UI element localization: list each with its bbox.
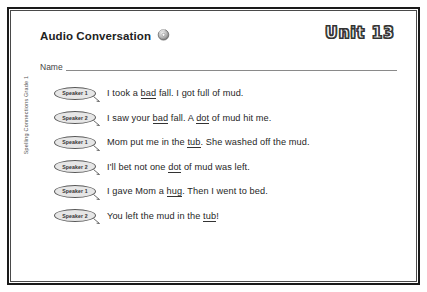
speaker-bubble: Speaker 1 bbox=[54, 87, 96, 100]
dialogue-line: Speaker 1 I gave Mom a hug. Then I went … bbox=[54, 179, 401, 204]
speaker-label: Speaker 1 bbox=[62, 90, 87, 96]
dialogue-list: Speaker 1 I took a bad fall. I got full … bbox=[36, 81, 401, 228]
spelling-word: tub bbox=[187, 137, 200, 148]
worksheet-page: Spelling Connections Grade 1 Audio Conve… bbox=[0, 0, 427, 292]
utterance-text: You left the mud in the tub! bbox=[96, 211, 219, 221]
spelling-word: bad bbox=[141, 88, 157, 99]
dialogue-line: Speaker 2 You left the mud in the tub! bbox=[54, 204, 401, 229]
speaker-bubble: Speaker 2 bbox=[54, 160, 96, 173]
name-field-row[interactable]: Name bbox=[36, 57, 401, 72]
speaker-label: Speaker 2 bbox=[62, 213, 87, 219]
speaker-bubble: Speaker 1 bbox=[54, 136, 96, 149]
speaker-bubble: Speaker 2 bbox=[54, 209, 96, 222]
spelling-word: bad bbox=[153, 113, 169, 124]
utterance-text: I saw your bad fall. A dot of mud hit me… bbox=[96, 113, 271, 123]
utterance-text: I'll bet not one dot of mud was left. bbox=[96, 162, 250, 172]
speaker-label: Speaker 2 bbox=[62, 115, 87, 121]
worksheet-content: Audio Conversation bbox=[36, 24, 401, 268]
speaker-label: Speaker 1 bbox=[62, 139, 87, 145]
worksheet-header: Audio Conversation bbox=[36, 24, 401, 48]
audio-disc-icon bbox=[157, 27, 170, 45]
name-label: Name bbox=[40, 63, 66, 73]
dialogue-line: Speaker 1 Mom put me in the tub. She was… bbox=[54, 130, 401, 155]
dialogue-line: Speaker 1 I took a bad fall. I got full … bbox=[54, 81, 401, 106]
utterance-text: I took a bad fall. I got full of mud. bbox=[96, 88, 244, 98]
bubble-tail-icon bbox=[93, 120, 100, 126]
dialogue-line: Speaker 2 I'll bet not one dot of mud wa… bbox=[54, 155, 401, 180]
dialogue-line: Speaker 2 I saw your bad fall. A dot of … bbox=[54, 106, 401, 131]
bubble-tail-icon bbox=[93, 194, 100, 200]
page-title: Audio Conversation bbox=[40, 30, 151, 42]
speaker-bubble: Speaker 1 bbox=[54, 185, 96, 198]
utterance-text: I gave Mom a hug. Then I went to bed. bbox=[96, 186, 268, 196]
bubble-tail-icon bbox=[93, 145, 100, 151]
bubble-tail-icon bbox=[93, 169, 100, 175]
utterance-text: Mom put me in the tub. She washed off th… bbox=[96, 137, 310, 147]
name-write-line[interactable] bbox=[66, 69, 397, 71]
spelling-word: dot bbox=[196, 113, 209, 124]
title-group: Audio Conversation bbox=[40, 27, 170, 45]
speaker-label: Speaker 1 bbox=[62, 188, 87, 194]
spelling-word: hug bbox=[167, 186, 183, 197]
unit-badge: Unit 13 bbox=[325, 24, 395, 42]
bubble-tail-icon bbox=[93, 218, 100, 224]
spelling-word: tub bbox=[203, 211, 216, 222]
bubble-tail-icon bbox=[93, 96, 100, 102]
spelling-word: dot bbox=[168, 162, 181, 173]
speaker-label: Speaker 2 bbox=[62, 164, 87, 170]
side-credit-text: Spelling Connections Grade 1 bbox=[23, 45, 29, 185]
speaker-bubble: Speaker 2 bbox=[54, 111, 96, 124]
